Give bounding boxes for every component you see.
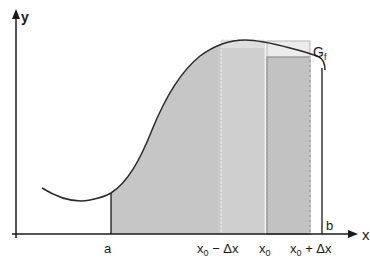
x0-minus-suffix: − Δx [209,241,239,256]
tick-label-x0-plus-dx: x0 + Δx [290,242,332,258]
curve-label-main: G [313,44,324,60]
y-axis-arrow-icon [12,9,20,19]
x-axis-arrow-icon [348,230,358,238]
x0-sub: 0 [266,248,271,258]
y-axis-label: y [21,10,29,24]
curve-label: Gf [313,45,326,62]
tick-label-x0-minus-dx: x0 − Δx [197,242,239,258]
tick-label-x0: x0 [259,242,271,258]
x0-plus-suffix: + Δx [302,241,332,256]
curve-label-sub: f [324,52,327,62]
tick-label-a: a [104,242,111,255]
strip-left [221,40,265,234]
area-under-curve [111,44,221,234]
tick-label-b: b [326,219,333,232]
x-axis-label: x [362,227,370,242]
strip-right-inner [267,57,310,234]
